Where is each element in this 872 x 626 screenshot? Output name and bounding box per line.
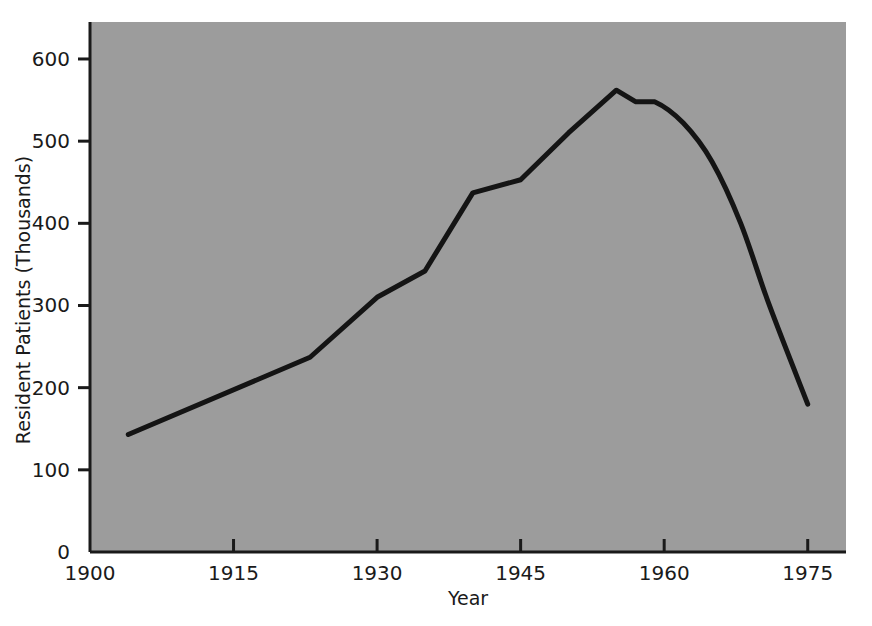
- chart-figure: 0100200300400500600 19001915193019451960…: [0, 0, 872, 626]
- plot-area-background: [90, 22, 846, 552]
- y-axis-label: Resident Patients (Thousands): [12, 156, 34, 444]
- x-axis-label: Year: [447, 587, 488, 609]
- y-axis-tick-label: 100: [32, 458, 70, 482]
- line-chart: 0100200300400500600 19001915193019451960…: [0, 0, 872, 626]
- y-axis-tick-label: 400: [32, 211, 70, 235]
- x-axis-tick-label: 1960: [639, 561, 690, 585]
- x-axis-tick-label: 1900: [65, 561, 116, 585]
- y-axis-tick-label: 500: [32, 129, 70, 153]
- y-axis-tick-label: 300: [32, 293, 70, 317]
- x-axis-tick-label: 1975: [782, 561, 833, 585]
- y-axis-tick-label: 200: [32, 376, 70, 400]
- x-axis-tick-label: 1945: [495, 561, 546, 585]
- x-axis-tick-label: 1915: [208, 561, 259, 585]
- y-axis-tick-label: 600: [32, 47, 70, 71]
- x-axis-tick-label: 1930: [352, 561, 403, 585]
